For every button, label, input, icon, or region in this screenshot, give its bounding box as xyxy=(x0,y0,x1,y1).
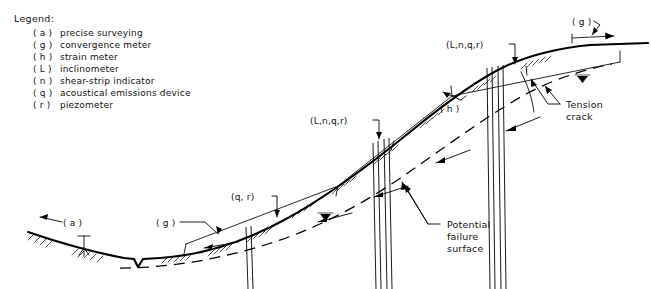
diagram-canvas: Legend: ( a ) precise surveying ( g ) co… xyxy=(0,0,651,289)
legend-key-a: ( a ) xyxy=(33,28,52,38)
legend-key-n: ( n ) xyxy=(33,76,52,86)
legend-key-h: ( h ) xyxy=(33,52,52,62)
legend-label-n: shear-strip indicator xyxy=(60,76,155,86)
legend-label-h: strain meter xyxy=(60,52,118,62)
legend-block: Legend: ( a ) precise surveying ( g ) co… xyxy=(14,13,191,110)
survey-tripod-icon xyxy=(78,236,90,256)
leader-piezometer-cluster xyxy=(272,196,280,217)
convergence-measure-mid xyxy=(338,96,452,186)
legend-label-q: acoustical emissions device xyxy=(60,88,191,98)
leader-convergence-lower xyxy=(180,222,222,234)
legend-label-r: piezometer xyxy=(60,100,113,110)
tension-crack-line2: crack xyxy=(566,111,593,122)
callout-borehole-mid: (L,n,q,r) xyxy=(310,116,348,126)
callout-precise-surveying: ( a ) xyxy=(63,218,82,228)
failure-surface-line2: failure xyxy=(447,231,478,242)
slope-monitoring-figure: Legend: ( a ) precise surveying ( g ) co… xyxy=(0,0,651,289)
legend-label-g: convergence meter xyxy=(60,40,151,50)
leader-convergence-crest xyxy=(592,21,600,35)
legend-heading: Legend: xyxy=(14,13,54,24)
callout-borehole-upper: (L,n,q,r) xyxy=(446,40,484,50)
legend-key-l: ( L ) xyxy=(33,64,52,74)
tension-crack-line1: Tension xyxy=(565,99,603,110)
failure-surface-line1: Potential xyxy=(447,219,490,230)
legend-label-l: inclinometer xyxy=(60,64,119,74)
legend-key-r: ( r ) xyxy=(33,100,50,110)
legend-key-g: ( g ) xyxy=(33,40,52,50)
borehole-casing-upper xyxy=(487,65,506,289)
annotation-potential-failure-surface: Potential failure surface xyxy=(447,219,490,254)
annotation-tension-crack: Tension crack xyxy=(565,99,603,122)
legend-key-q: ( q ) xyxy=(33,88,52,98)
borehole-casing-mid xyxy=(373,138,392,289)
water-table-icon xyxy=(318,213,333,221)
leader-potential-failure-surface xyxy=(401,182,440,224)
callout-convergence-meter-crest: ( g ) xyxy=(572,17,591,27)
water-table-icon xyxy=(575,75,590,83)
callout-convergence-meter-lower: ( g ) xyxy=(156,218,175,228)
legend-label-a: precise surveying xyxy=(60,28,143,38)
callout-piezometer-cluster: (q, r) xyxy=(231,192,254,202)
convergence-meter-lower xyxy=(184,186,338,254)
failure-surface-line3: surface xyxy=(447,243,484,254)
leader-borehole-mid xyxy=(373,120,382,139)
leader-precise-surveying xyxy=(40,214,62,222)
callout-strain-meter: ( h ) xyxy=(440,104,459,114)
